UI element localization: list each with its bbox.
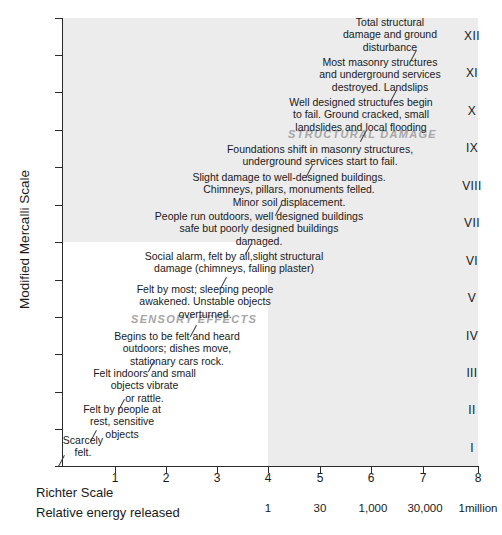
x-tick-label-6: 6 xyxy=(356,471,386,485)
y-tick-label-viii: VIII xyxy=(450,179,494,193)
annotation-iii: Felt indoors and small objects vibrate o… xyxy=(62,367,227,404)
y-tick-vii-vi xyxy=(55,242,63,243)
y-tick-label-i: I xyxy=(450,441,494,455)
y-tick-x-ix xyxy=(55,130,63,131)
y-tick-v-iv xyxy=(55,317,63,318)
y-tick-vi-v xyxy=(55,280,63,281)
y-tick-iv-iii xyxy=(55,354,63,355)
energy-axis-title: Relative energy released xyxy=(36,505,180,520)
annotation-i: Scarcely felt. xyxy=(50,434,116,459)
x-tick-label-1: 1 xyxy=(100,471,130,485)
y-tick-label-ix: IX xyxy=(450,141,494,155)
x-tick-label-3: 3 xyxy=(202,471,232,485)
y-tick-xii-xi xyxy=(55,55,63,56)
y-axis-title: Modified Mercalli Scale xyxy=(17,140,32,340)
annotation-vii: People run outdoors, well designed build… xyxy=(135,210,383,247)
y-tick-label-vi: VI xyxy=(450,254,494,268)
x-tick-label-7: 7 xyxy=(408,471,438,485)
y-tick-label-v: V xyxy=(450,291,494,305)
y-tick-xi-x xyxy=(55,92,63,93)
x-tick-label-2: 2 xyxy=(151,471,181,485)
annotation-ix: Foundations shift in masonry structures,… xyxy=(196,143,444,168)
x-tick-label-5: 5 xyxy=(305,471,335,485)
annotation-v: Felt by most; sleeping people awakened. … xyxy=(105,283,305,320)
y-tick-label-iv: IV xyxy=(450,329,494,343)
sensory-effects-band xyxy=(268,242,478,466)
x-axis-title: Richter Scale xyxy=(36,485,113,500)
x-tick-label-8: 8 xyxy=(463,471,493,485)
y-tick-ix-viii xyxy=(55,167,63,168)
annotation-viii: Slight damage to well-designed buildings… xyxy=(165,171,413,208)
y-tick-label-vii: VII xyxy=(450,216,494,230)
annotation-x: Well designed structures begin to fail. … xyxy=(250,96,472,133)
y-tick-top xyxy=(55,18,63,19)
y-tick-label-ii: II xyxy=(450,403,494,417)
annotation-xii: Total structural damage and ground distu… xyxy=(300,16,480,53)
y-tick-viii-vii xyxy=(55,205,63,206)
energy-label-1million: 1million xyxy=(443,502,502,514)
x-tick-label-4: 4 xyxy=(253,471,283,485)
annotation-iv: Begins to be felt and heard outdoors; di… xyxy=(82,330,272,367)
annotation-xi: Most masonry structures and underground … xyxy=(280,56,480,93)
annotation-vi: Social alarm, felt by all,slight structu… xyxy=(110,250,358,275)
y-tick-label-iii: III xyxy=(450,366,494,380)
x-axis-line xyxy=(62,466,478,467)
